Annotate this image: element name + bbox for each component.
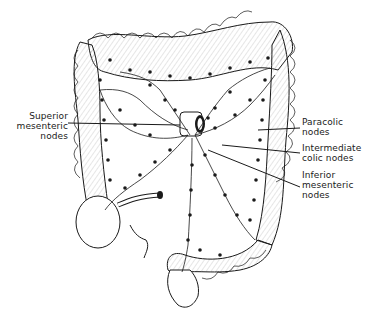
label-line: Intermediate (302, 143, 361, 153)
label-line: mesenteric (302, 180, 353, 190)
label-line: Superior (8, 111, 68, 121)
label-line: Paracolic (302, 117, 343, 127)
label-inferior-mesenteric-nodes: Inferior mesenteric nodes (302, 170, 353, 200)
label-line: Inferior (302, 170, 353, 180)
label-line: nodes (302, 190, 353, 200)
colon-lymph-node-diagram: Superior mesenteric nodes Paracolic node… (0, 0, 370, 315)
label-superior-mesenteric-nodes: Superior mesenteric nodes (8, 111, 68, 141)
label-line: nodes (302, 127, 343, 137)
label-paracolic-nodes: Paracolic nodes (302, 117, 343, 137)
label-line: colic nodes (302, 153, 361, 163)
label-line: nodes (8, 131, 68, 141)
cecum (76, 196, 120, 248)
rectum (168, 270, 199, 307)
label-line: mesenteric (8, 121, 68, 131)
label-intermediate-colic-nodes: Intermediate colic nodes (302, 143, 361, 163)
